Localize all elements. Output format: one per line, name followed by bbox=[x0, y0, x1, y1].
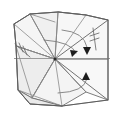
center-vertex-dot bbox=[53, 57, 56, 60]
origami-fold-diagram bbox=[0, 0, 124, 117]
upper-right-face bbox=[55, 12, 108, 59]
origami-figure-root bbox=[0, 0, 124, 117]
